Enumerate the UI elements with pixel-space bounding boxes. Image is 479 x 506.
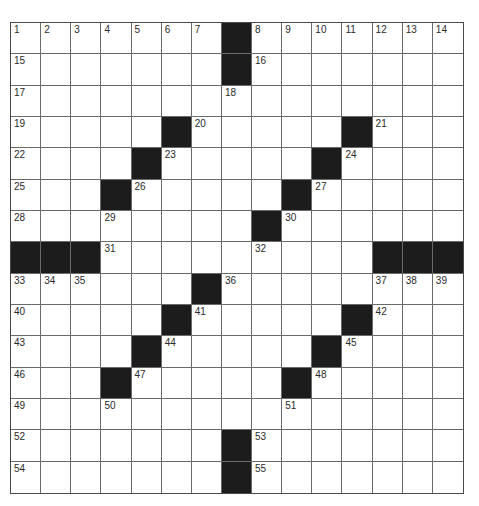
grid-cell[interactable]	[282, 274, 312, 305]
grid-cell[interactable]: 31	[101, 242, 131, 273]
grid-cell[interactable]	[41, 430, 71, 461]
grid-cell[interactable]	[162, 86, 192, 117]
grid-cell[interactable]: 19	[11, 117, 41, 148]
grid-cell[interactable]	[192, 336, 222, 367]
grid-cell[interactable]: 37	[373, 274, 403, 305]
grid-cell[interactable]	[342, 54, 372, 85]
grid-cell[interactable]	[312, 86, 342, 117]
grid-cell[interactable]	[41, 117, 71, 148]
grid-cell[interactable]: 46	[11, 368, 41, 399]
grid-cell[interactable]: 11	[342, 23, 372, 54]
grid-cell[interactable]	[41, 86, 71, 117]
grid-cell[interactable]	[71, 368, 101, 399]
grid-cell[interactable]	[71, 336, 101, 367]
grid-cell[interactable]	[312, 211, 342, 242]
grid-cell[interactable]	[373, 86, 403, 117]
grid-cell[interactable]	[71, 180, 101, 211]
grid-cell[interactable]	[433, 180, 463, 211]
grid-cell[interactable]	[192, 368, 222, 399]
grid-cell[interactable]	[192, 86, 222, 117]
grid-cell[interactable]	[71, 211, 101, 242]
grid-cell[interactable]	[252, 399, 282, 430]
grid-cell[interactable]: 24	[342, 148, 372, 179]
grid-cell[interactable]: 18	[222, 86, 252, 117]
grid-cell[interactable]: 29	[101, 211, 131, 242]
grid-cell[interactable]: 17	[11, 86, 41, 117]
grid-cell[interactable]	[312, 117, 342, 148]
grid-cell[interactable]: 42	[373, 305, 403, 336]
grid-cell[interactable]: 15	[11, 54, 41, 85]
grid-cell[interactable]: 47	[132, 368, 162, 399]
grid-cell[interactable]: 21	[373, 117, 403, 148]
grid-cell[interactable]	[252, 274, 282, 305]
grid-cell[interactable]: 26	[132, 180, 162, 211]
grid-cell[interactable]	[312, 54, 342, 85]
grid-cell[interactable]	[433, 148, 463, 179]
grid-cell[interactable]	[222, 148, 252, 179]
grid-cell[interactable]	[403, 305, 433, 336]
grid-cell[interactable]: 44	[162, 336, 192, 367]
grid-cell[interactable]	[403, 399, 433, 430]
grid-cell[interactable]: 38	[403, 274, 433, 305]
grid-cell[interactable]	[132, 399, 162, 430]
grid-cell[interactable]	[433, 368, 463, 399]
grid-cell[interactable]	[41, 305, 71, 336]
grid-cell[interactable]	[192, 180, 222, 211]
grid-cell[interactable]	[312, 399, 342, 430]
grid-cell[interactable]: 34	[41, 274, 71, 305]
grid-cell[interactable]	[162, 180, 192, 211]
grid-cell[interactable]	[222, 117, 252, 148]
grid-cell[interactable]	[282, 54, 312, 85]
grid-cell[interactable]	[282, 336, 312, 367]
grid-cell[interactable]	[162, 274, 192, 305]
grid-cell[interactable]	[162, 430, 192, 461]
grid-cell[interactable]: 20	[192, 117, 222, 148]
grid-cell[interactable]: 53	[252, 430, 282, 461]
grid-cell[interactable]	[71, 430, 101, 461]
grid-cell[interactable]	[252, 305, 282, 336]
grid-cell[interactable]	[342, 86, 372, 117]
grid-cell[interactable]	[132, 54, 162, 85]
grid-cell[interactable]: 33	[11, 274, 41, 305]
grid-cell[interactable]	[312, 305, 342, 336]
grid-cell[interactable]: 2	[41, 23, 71, 54]
grid-cell[interactable]	[101, 430, 131, 461]
grid-cell[interactable]	[41, 462, 71, 493]
grid-cell[interactable]: 27	[312, 180, 342, 211]
grid-cell[interactable]: 39	[433, 274, 463, 305]
grid-cell[interactable]	[132, 274, 162, 305]
grid-cell[interactable]: 51	[282, 399, 312, 430]
grid-cell[interactable]	[162, 462, 192, 493]
grid-cell[interactable]	[222, 336, 252, 367]
grid-cell[interactable]	[373, 148, 403, 179]
grid-cell[interactable]: 3	[71, 23, 101, 54]
grid-cell[interactable]	[192, 430, 222, 461]
grid-cell[interactable]	[433, 117, 463, 148]
grid-cell[interactable]	[132, 462, 162, 493]
grid-cell[interactable]	[282, 117, 312, 148]
grid-cell[interactable]	[162, 54, 192, 85]
grid-cell[interactable]	[282, 242, 312, 273]
grid-cell[interactable]	[41, 54, 71, 85]
grid-cell[interactable]	[101, 274, 131, 305]
grid-cell[interactable]: 7	[192, 23, 222, 54]
grid-cell[interactable]: 50	[101, 399, 131, 430]
grid-cell[interactable]	[192, 148, 222, 179]
grid-cell[interactable]	[222, 368, 252, 399]
grid-cell[interactable]: 35	[71, 274, 101, 305]
grid-cell[interactable]	[222, 180, 252, 211]
grid-cell[interactable]	[342, 211, 372, 242]
grid-cell[interactable]	[71, 462, 101, 493]
grid-cell[interactable]	[433, 336, 463, 367]
grid-cell[interactable]: 30	[282, 211, 312, 242]
grid-cell[interactable]	[162, 399, 192, 430]
grid-cell[interactable]: 6	[162, 23, 192, 54]
grid-cell[interactable]	[132, 305, 162, 336]
grid-cell[interactable]	[192, 54, 222, 85]
grid-cell[interactable]	[252, 86, 282, 117]
grid-cell[interactable]	[342, 430, 372, 461]
grid-cell[interactable]: 13	[403, 23, 433, 54]
grid-cell[interactable]	[403, 462, 433, 493]
grid-cell[interactable]	[403, 86, 433, 117]
grid-cell[interactable]	[373, 211, 403, 242]
